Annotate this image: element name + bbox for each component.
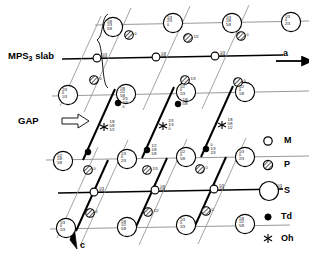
- site-M-label: 1/3 5/3: [277, 185, 282, 193]
- site-P-label: 1/3: [153, 168, 158, 172]
- site-Td-label: 2/3 1/3 0: [123, 98, 128, 109]
- site-Oh-label: 1/8 5/8 1/2: [228, 119, 233, 130]
- site-S-label: 1/3 0 2/3: [239, 151, 244, 162]
- site-S-label: 1/3 1/8 5/8: [226, 17, 231, 28]
- site-P-label: 0: [135, 33, 137, 37]
- site-P-label: 0: [94, 168, 96, 172]
- site-S-label: 1/8 1/2 5/8: [121, 221, 126, 232]
- site-Td-label: 1/8 5/8: [183, 99, 188, 107]
- site-P-label: 0: [212, 209, 214, 213]
- legend-label-Oh: Oh: [281, 233, 294, 243]
- site-Oh-label: 1/8 5/8 1/2: [110, 121, 115, 132]
- site-P-label: 1/2: [194, 36, 199, 40]
- site-S-label: 2/3 0 1/3: [62, 89, 67, 100]
- site-M-label: 1/8 5/8: [160, 186, 165, 194]
- legend-label-Td: Td: [281, 211, 292, 221]
- site-S-label: 1/2 0 5/8: [180, 151, 185, 162]
- site-label-layer: 1/8 1/3 5/81/3 2/3 01/3 1/8 5/81/3 0 2/3…: [0, 0, 309, 263]
- site-S-label: 1/3 2/3 0: [167, 17, 172, 28]
- site-S-label: 1/8 1/2 5/8: [239, 218, 244, 229]
- legend-label-M: M: [284, 135, 292, 145]
- site-S-label: 1/2 0 1/8: [239, 86, 244, 97]
- gap-label: GAP: [18, 115, 39, 126]
- site-P-label: 0: [206, 167, 208, 171]
- site-M-label: 1/3 2/3: [219, 185, 224, 193]
- slab-label: MPS3 slab: [8, 50, 54, 62]
- axis-a-label: a: [283, 48, 288, 58]
- site-P-label: 1/3: [191, 78, 196, 82]
- site-M-label: 1/8 5/8: [161, 53, 166, 61]
- site-P-label: 0: [247, 34, 249, 38]
- site-P-label: 0: [96, 211, 98, 215]
- axis-c-label: c: [80, 240, 85, 250]
- legend-label-P: P: [284, 159, 290, 169]
- site-S-label: 1/3 0 2/3: [60, 222, 65, 233]
- site-P-label: 0: [244, 80, 246, 84]
- site-S-label: 1/8 1/3 5/8: [107, 21, 112, 32]
- site-Oh-label: 2/3 1/3 0: [169, 120, 174, 131]
- slab-label-main: MPS: [8, 50, 29, 61]
- site-S-label: 1/2 1/8 5/8: [57, 155, 62, 166]
- site-S-label: 1/3 0 2/3: [285, 16, 290, 27]
- figure-root: 1/8 1/3 5/81/3 2/3 01/3 1/8 5/81/3 0 2/3…: [0, 0, 309, 263]
- site-S-label: 1/2 0 2/3: [180, 86, 185, 97]
- site-M-label: 1/3 2/3: [220, 52, 225, 60]
- site-Td-label: 1/2 1/8 5/8: [152, 145, 157, 156]
- site-P-label: 0: [100, 78, 102, 82]
- site-S-label: 1/3 0 2/3: [121, 153, 126, 164]
- site-Td-label: 0 1/3 2/3: [211, 144, 216, 155]
- site-M-label: 1/3 2/3: [99, 188, 104, 196]
- site-S-label: 1/3 0 2/3: [180, 219, 185, 230]
- site-M-label: 1/3 2/3: [102, 54, 107, 62]
- site-P-label: 1/2: [154, 210, 159, 214]
- legend-label-S: S: [284, 185, 290, 195]
- slab-label-tail: slab: [33, 50, 55, 61]
